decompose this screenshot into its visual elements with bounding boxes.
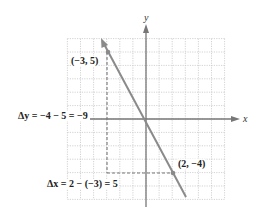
point-a — [106, 50, 111, 55]
y-axis-arrow-icon — [143, 24, 149, 33]
point-b-label: (2, −4) — [178, 159, 205, 169]
point-b — [171, 171, 176, 176]
point-a-label: (−3, 5) — [71, 56, 98, 66]
slope-diagram: y x (−3, 5) (2, −4) Δy = −4 − 5 = −9 Δx … — [0, 0, 261, 219]
x-axis-label: x — [243, 114, 247, 124]
delta-y-annotation: Δy = −4 − 5 = −9 — [18, 111, 90, 121]
y-axis-label: y — [144, 13, 148, 23]
x-axis-arrow-icon — [231, 116, 240, 122]
delta-x-annotation: Δx = 2 − (−3) = 5 — [47, 179, 119, 189]
